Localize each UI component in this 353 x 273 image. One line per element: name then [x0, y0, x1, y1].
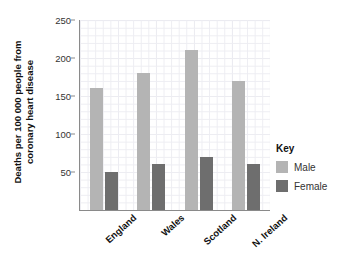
- legend-label-female: Female: [294, 181, 327, 192]
- x-tick-label-n-ireland: N. Ireland: [250, 212, 290, 249]
- y-tick-label-150: 150: [55, 91, 71, 102]
- y-axis-tick-labels: 250 200 150 100 50: [44, 14, 75, 214]
- y-tick-mark-150: [71, 96, 75, 97]
- legend: Key Male Female: [276, 143, 351, 199]
- bar-chart: Deaths per 100 000 people from coronary …: [0, 0, 353, 273]
- bar-groups: [80, 20, 270, 210]
- x-tick-label-wales: Wales: [159, 212, 187, 238]
- y-tick-label-100: 100: [55, 129, 71, 140]
- bar-group-scotland: [185, 20, 213, 210]
- y-axis-title-line-1: Deaths per 100 000 people from: [12, 40, 24, 183]
- y-tick-mark-100: [71, 134, 75, 135]
- y-tick-mark-250: [71, 20, 75, 21]
- legend-swatch-female: [276, 180, 288, 192]
- y-tick-label-50: 50: [60, 167, 71, 178]
- x-tick-label-england: England: [103, 212, 138, 245]
- bar-scotland-male: [185, 50, 198, 210]
- bar-wales-female: [152, 164, 165, 210]
- y-tick-label-200: 200: [55, 53, 71, 64]
- x-tick-label-scotland: Scotland: [201, 212, 238, 247]
- y-axis-title: Deaths per 100 000 people from coronary …: [4, 14, 44, 210]
- bar-group-n-ireland: [232, 20, 260, 210]
- bar-n-ireland-female: [247, 164, 260, 210]
- bar-n-ireland-male: [232, 81, 245, 210]
- bar-scotland-female: [200, 157, 213, 210]
- plot-area: [79, 20, 270, 211]
- bar-england-male: [90, 88, 103, 210]
- bar-wales-male: [137, 73, 150, 210]
- legend-item-female: Female: [276, 180, 351, 192]
- legend-title: Key: [276, 143, 351, 154]
- y-tick-mark-200: [71, 58, 75, 59]
- legend-label-male: Male: [294, 162, 316, 173]
- bar-england-female: [105, 172, 118, 210]
- legend-swatch-male: [276, 161, 288, 173]
- bar-group-england: [90, 20, 118, 210]
- y-tick-mark-50: [71, 172, 75, 173]
- x-axis-tick-labels: England Wales Scotland N. Ireland: [79, 212, 269, 270]
- bar-group-wales: [137, 20, 165, 210]
- y-tick-label-250: 250: [55, 15, 71, 26]
- legend-item-male: Male: [276, 161, 351, 173]
- y-axis-title-line-2: coronary heart disease: [24, 40, 36, 183]
